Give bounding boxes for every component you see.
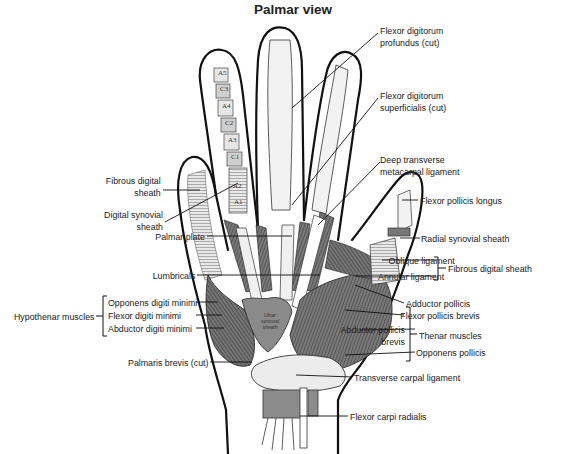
label-adductor-pollicis: Adductor pollicis [406,298,470,310]
pulley-label: A3 [228,136,237,144]
wrist-tendons [262,388,318,450]
label-line: metacarpal ligament [380,166,459,178]
pulley-label: C3 [220,85,228,93]
pulley-label: A4 [222,102,231,110]
little-finger-fibrous-sheath [188,170,222,280]
label-opponens-pollicis: Opponens pollicis [416,347,486,359]
label-flexor-digiti-minimi: Flexor digiti minimi [108,310,181,322]
label-hypothenar-muscles-group: Hypothenar muscles [14,311,94,323]
label-digital-synovial-sheath: Digital synovial sheath [104,209,163,232]
label-line: Digital synovial [104,209,163,221]
label-line: sheath [255,324,285,330]
page-title: Palmar view [0,2,586,17]
label-transverse-carpal-ligament: Transverse carpal ligament [354,372,460,384]
label-text: Oblique ligament [389,255,455,266]
label-radial-synovial-sheath: Radial synovial sheath [421,233,509,245]
label-flexor-pollicis-longus: Flexor pollicis longus [420,195,502,207]
label-palmar-plate: Palmar plate [155,231,205,243]
label-flexor-carpi-radialis: Flexor carpi radialis [350,411,427,423]
label-ulnar-synovial-sheath: Ulnar synovial sheath [255,312,285,330]
label-line: sheath [106,187,161,199]
label-line: Flexor digitorum [380,25,443,37]
index-finger-tendons [312,65,348,214]
label-flexor-digitorum-superficialis: Flexor digitorum superficialis (cut) [380,90,446,113]
label-flexor-digitorum-profundus: Flexor digitorum profundus (cut) [380,25,443,48]
pulley-label: A2 [233,182,242,190]
label-text: Flexor pollicis brevis [400,310,479,321]
label-abductor-digiti-minimi: Abductor digiti minimi [108,323,192,335]
pulley-label: C2 [225,119,233,127]
label-palmaris-brevis: Palmaris brevis (cut) [128,357,208,369]
pulley-label: A5 [218,69,227,77]
label-lumbricals: Lumbricals [152,270,195,282]
label-line: Deep transverse [380,154,459,166]
pulley-label: A1 [234,198,243,206]
label-line: Fibrous digital [106,175,161,187]
middle-finger-tendons [268,40,292,210]
label-line: superficialis (cut) [380,102,446,114]
label-line: profundus (cut) [380,37,443,49]
label-flexor-pollicis-brevis: Flexor pollicis brevis [346,310,425,322]
hand-illustration [0,0,586,454]
label-text: Opponens pollicis [416,347,486,358]
label-annular-ligament: Annular ligament [378,271,444,283]
label-thenar-muscles-group: Thenar muscles [419,330,482,342]
label-line: Abductor pollicis [341,324,405,336]
label-line: sheath [104,221,163,233]
label-line: Flexor digitorum [380,90,446,102]
label-line: brevis [341,336,405,348]
label-abductor-pollicis-brevis: Abductor pollicis brevis [341,324,405,347]
label-fibrous-digital-sheath: Fibrous digital sheath [106,175,161,198]
label-opponens-digiti-minimi: Opponens digiti minimi [108,297,197,309]
hand-anatomy-diagram: Palmar view Flexor digitorum profundus (… [0,0,586,454]
label-fibrous-digital-sheath-group: Fibrous digital sheath [448,263,532,275]
transverse-carpal-ligament [251,355,345,392]
pulley-label: C1 [231,153,239,161]
label-deep-transverse-metacarpal-ligament: Deep transverse metacarpal ligament [380,154,459,177]
